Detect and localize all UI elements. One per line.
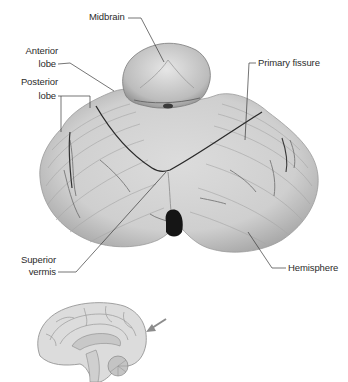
label-primary-fissure: Primary fissure <box>258 57 320 68</box>
label-anterior-lobe-line1: Anterior <box>10 45 58 56</box>
label-posterior-lobe-line1: Posterior <box>4 76 58 87</box>
cerebellum-body <box>40 89 318 252</box>
posterior-cerebellar-notch <box>166 210 183 237</box>
label-midbrain: Midbrain <box>89 11 125 22</box>
label-superior-vermis-line1: Superior <box>4 254 56 265</box>
cerebellum-figure: Midbrain Anterior lobe Posterior lobe Pr… <box>0 0 348 382</box>
midbrain-structure <box>123 43 211 108</box>
brain-orientation-inset <box>38 303 147 382</box>
label-superior-vermis-line2: vermis <box>4 266 56 277</box>
label-posterior-lobe-line2: lobe <box>10 90 56 101</box>
label-hemisphere: Hemisphere <box>288 262 338 273</box>
label-anterior-lobe-line2: lobe <box>10 58 56 69</box>
view-direction-arrow-icon <box>146 319 166 332</box>
anterior-lobe-leader <box>58 63 114 91</box>
